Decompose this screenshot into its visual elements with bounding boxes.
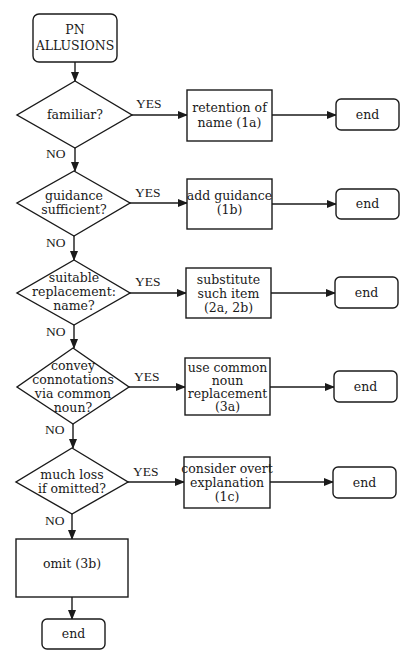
end-node-3: end	[335, 277, 398, 308]
start-line-2: ALLUSIONS	[35, 38, 115, 53]
end-2-label: end	[356, 196, 379, 211]
action-1-line-2: name (1a)	[198, 115, 262, 130]
action-retention-of-name: retention of name (1a)	[187, 90, 272, 141]
action-omit: omit (3b)	[16, 539, 128, 597]
end-node-final: end	[42, 619, 105, 649]
decision-5-line-2: if omitted?	[38, 481, 106, 496]
decision-4-line-2: connotations	[32, 372, 114, 387]
decision-suitable-replacement: suitable replacement: name?	[17, 260, 130, 325]
no-label-1: NO	[46, 146, 66, 161]
action-use-common-noun-replacement: use common noun replacement (3a)	[185, 358, 270, 415]
decision-4-line-4: noun?	[54, 400, 93, 415]
start-line-1: PN	[65, 22, 84, 37]
end-4-label: end	[354, 379, 377, 394]
action-5-line-1: consider overt	[181, 461, 272, 476]
decision-2-line-1: guidance	[45, 188, 103, 203]
decision-familiar: familiar?	[17, 81, 132, 148]
decision-2-line-2: sufficient?	[41, 202, 107, 217]
decision-guidance-sufficient: guidance sufficient?	[17, 171, 130, 236]
action-2-line-2: (1b)	[217, 202, 243, 217]
action-4-line-4: (3a)	[215, 399, 240, 414]
decision-3-line-3: name?	[53, 298, 95, 313]
end-node-4: end	[334, 371, 397, 402]
action-3-line-2: such item	[198, 286, 260, 301]
action-consider-overt-explanation: consider overt explanation (1c)	[181, 457, 272, 508]
no-label-5: NO	[45, 513, 65, 528]
no-label-3: NO	[46, 324, 66, 339]
flowchart-canvas: PN ALLUSIONS familiar? YES retention of …	[0, 0, 411, 661]
start-node: PN ALLUSIONS	[33, 14, 117, 62]
action-1-line-1: retention of	[192, 100, 268, 115]
decision-4-line-3: via common	[34, 386, 111, 401]
decision-4-line-1: convey	[51, 358, 96, 373]
end-3-label: end	[355, 285, 378, 300]
action-2-line-1: add guidance	[187, 188, 272, 203]
decision-1-line-1: familiar?	[47, 107, 103, 122]
action-substitute-such-item: substitute such item (2a, 2b)	[186, 268, 271, 318]
end-5-label: end	[353, 475, 376, 490]
action-add-guidance: add guidance (1b)	[187, 179, 272, 229]
action-5-line-2: explanation	[190, 475, 264, 490]
end-node-5: end	[333, 467, 396, 498]
yes-label-5: YES	[133, 464, 159, 479]
yes-label-1: YES	[136, 96, 162, 111]
decision-3-line-1: suitable	[49, 270, 99, 285]
omit-label: omit (3b)	[43, 556, 101, 571]
action-3-line-1: substitute	[197, 272, 260, 287]
end-1-label: end	[356, 107, 379, 122]
action-3-line-3: (2a, 2b)	[204, 300, 253, 315]
no-label-2: NO	[46, 235, 66, 250]
yes-label-2: YES	[135, 185, 161, 200]
yes-label-4: YES	[134, 369, 160, 384]
decision-convey-connotations: convey connotations via common noun?	[17, 348, 129, 424]
end-node-1: end	[336, 99, 399, 130]
end-final-label: end	[62, 626, 85, 641]
decision-3-line-2: replacement:	[32, 284, 116, 299]
end-node-2: end	[336, 189, 399, 219]
decision-much-loss-if-omitted: much loss if omitted?	[16, 448, 128, 514]
yes-label-3: YES	[135, 274, 161, 289]
action-5-line-3: (1c)	[215, 489, 240, 504]
no-label-4: NO	[45, 422, 65, 437]
decision-5-line-1: much loss	[40, 467, 103, 482]
